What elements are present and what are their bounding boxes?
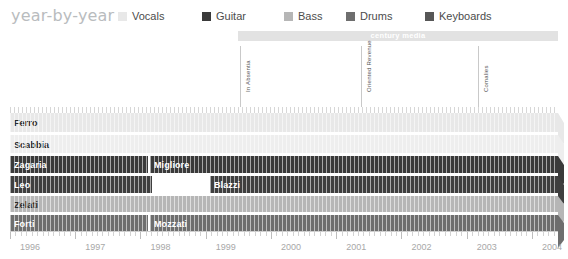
axis-tick-minor bbox=[391, 232, 392, 236]
axis-tick-minor bbox=[200, 232, 201, 236]
axis-tick-minor bbox=[43, 232, 44, 236]
legend-swatch-icon bbox=[284, 12, 293, 21]
axis-tick-minor bbox=[331, 232, 332, 236]
axis-tick-minor bbox=[64, 232, 65, 236]
tick-hatch-overlay bbox=[210, 176, 558, 194]
axis-tick-minor bbox=[499, 232, 500, 236]
album-marker-label: Comalies bbox=[483, 65, 489, 92]
axis-tick-minor bbox=[314, 232, 315, 236]
axis-tick-minor bbox=[48, 232, 49, 236]
legend-item-guitar[interactable]: Guitar bbox=[202, 8, 246, 24]
tick-hatch-overlay bbox=[10, 113, 558, 133]
axis-tick-minor bbox=[554, 232, 555, 236]
axis-tick-major bbox=[75, 232, 76, 239]
axis-tick-minor bbox=[97, 232, 98, 236]
axis-tick-minor bbox=[505, 232, 506, 236]
record-label-name: century media bbox=[238, 31, 558, 41]
axis-tick-minor bbox=[521, 232, 522, 236]
legend-item-drums[interactable]: Drums bbox=[346, 8, 392, 24]
axis-tick-minor bbox=[298, 232, 299, 236]
axis-tick-label: 1999 bbox=[216, 242, 236, 252]
axis-tick-minor bbox=[92, 232, 93, 236]
legend-item-keyboards[interactable]: Keyboards bbox=[425, 8, 492, 24]
legend-swatch-icon bbox=[346, 12, 355, 21]
tick-hatch-overlay bbox=[10, 196, 558, 213]
axis-tick-minor bbox=[189, 232, 190, 236]
timeline-row: ZagariaMigliore bbox=[10, 156, 558, 174]
axis-tick-minor bbox=[151, 232, 152, 236]
legend-item-label: Guitar bbox=[216, 10, 246, 22]
axis-tick-minor bbox=[124, 232, 125, 236]
tick-hatch-overlay bbox=[10, 176, 152, 194]
axis-tick-major bbox=[336, 232, 337, 239]
member-bar[interactable]: Forti bbox=[10, 215, 148, 232]
member-name: Zelati bbox=[14, 200, 38, 210]
axis-tick-minor bbox=[423, 232, 424, 236]
axis-tick-minor bbox=[412, 232, 413, 236]
axis-tick-minor bbox=[347, 232, 348, 236]
axis-tick-minor bbox=[37, 232, 38, 236]
year-by-year-chart: year-by-year VocalsGuitarBassDrumsKeyboa… bbox=[0, 0, 568, 259]
member-bar[interactable]: Scabbia bbox=[10, 135, 558, 154]
timeline-row: FortiMozzati bbox=[10, 215, 558, 232]
axis-tick-minor bbox=[26, 232, 27, 236]
member-bar[interactable]: Migliore bbox=[150, 156, 558, 174]
axis-tick-minor bbox=[537, 232, 538, 236]
axis-tick-minor bbox=[162, 232, 163, 236]
member-bar[interactable]: Blazzi bbox=[210, 176, 558, 194]
axis-tick-label: 1998 bbox=[150, 242, 170, 252]
member-bar[interactable]: Ferro bbox=[10, 113, 558, 133]
axis-tick-minor bbox=[439, 232, 440, 236]
member-bar[interactable]: Zelati bbox=[10, 196, 558, 213]
axis-tick-minor bbox=[282, 232, 283, 236]
axis-tick-minor bbox=[227, 232, 228, 236]
axis-tick-minor bbox=[135, 232, 136, 236]
legend-item-bass[interactable]: Bass bbox=[284, 8, 322, 24]
axis-tick-minor bbox=[287, 232, 288, 236]
record-label-band: century media bbox=[238, 31, 558, 41]
axis-tick-major bbox=[401, 232, 402, 239]
axis-tick-major bbox=[467, 232, 468, 239]
top-tick-band bbox=[10, 107, 558, 113]
axis-tick-minor bbox=[233, 232, 234, 236]
axis-tick-minor bbox=[21, 232, 22, 236]
axis-tick-label: 2000 bbox=[281, 242, 301, 252]
axis-tick-minor bbox=[526, 232, 527, 236]
axis-tick-minor bbox=[543, 232, 544, 236]
member-bar[interactable]: Zagaria bbox=[10, 156, 148, 174]
member-bar[interactable]: Leo bbox=[10, 176, 152, 194]
axis-tick-minor bbox=[304, 232, 305, 236]
axis-tick-label: 1997 bbox=[85, 242, 105, 252]
member-name: Forti bbox=[14, 219, 35, 229]
axis-tick-minor bbox=[488, 232, 489, 236]
axis-tick-label: 2002 bbox=[411, 242, 431, 252]
axis-tick-label: 2003 bbox=[477, 242, 497, 252]
axis-tick-minor bbox=[342, 232, 343, 236]
axis-tick-major bbox=[271, 232, 272, 239]
timeline-row: Ferro bbox=[10, 113, 558, 133]
axis-tick-major bbox=[532, 232, 533, 239]
axis-tick-minor bbox=[418, 232, 419, 236]
axis-tick-minor bbox=[461, 232, 462, 236]
axis-tick-minor bbox=[211, 232, 212, 236]
axis-tick-minor bbox=[249, 232, 250, 236]
axis-tick-minor bbox=[59, 232, 60, 236]
axis-tick-minor bbox=[255, 232, 256, 236]
axis-tick-minor bbox=[179, 232, 180, 236]
legend-swatch-icon bbox=[202, 12, 211, 21]
axis-tick-minor bbox=[516, 232, 517, 236]
axis-tick-minor bbox=[293, 232, 294, 236]
timeline-row: Scabbia bbox=[10, 135, 558, 154]
axis-tick-minor bbox=[157, 232, 158, 236]
axis-tick-minor bbox=[276, 232, 277, 236]
member-bar[interactable]: Mozzati bbox=[150, 215, 558, 232]
axis-tick-minor bbox=[102, 232, 103, 236]
axis-tick-minor bbox=[146, 232, 147, 236]
axis-tick-minor bbox=[309, 232, 310, 236]
legend-item-vocals[interactable]: Vocals bbox=[118, 8, 164, 24]
x-axis: 199619971998199920002001200220032004 bbox=[10, 231, 558, 259]
axis-tick-minor bbox=[244, 232, 245, 236]
axis-tick-major bbox=[140, 232, 141, 239]
album-marker-line bbox=[361, 46, 362, 116]
timeline-row: LeoBlazzi bbox=[10, 176, 558, 194]
